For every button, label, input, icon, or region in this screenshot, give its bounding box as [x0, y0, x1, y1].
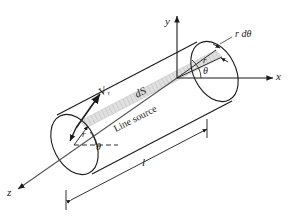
left-theta-label: θ [96, 142, 101, 152]
right-radius-label: r [203, 56, 207, 65]
x-axis-label: x [276, 71, 281, 82]
coordinate-axes [18, 16, 273, 189]
z-axis-label: z [7, 187, 11, 198]
left-radius-label: r [82, 130, 86, 139]
z-axis-line [18, 78, 177, 189]
y-axis-label: y [165, 16, 170, 27]
length-dimension [66, 119, 207, 210]
arc-element-label: r dθ [235, 29, 251, 39]
right-theta-label: θ [203, 66, 208, 76]
length-label: l [142, 157, 145, 168]
figure-canvas: y x z r dθ r θ r θ Vr dS Line source l [0, 0, 291, 217]
